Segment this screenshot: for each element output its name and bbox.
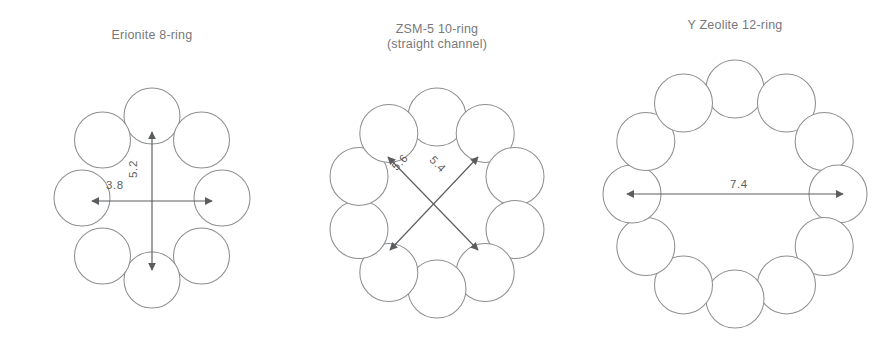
zeolite-ring-comparison-figure: Erionite 8-ring5.23.8ZSM-5 10-ring (stra… <box>0 0 888 350</box>
ring-atom <box>706 270 764 328</box>
ring-atom <box>617 218 675 276</box>
dimension-label-horizontal-aperture: 7.4 <box>723 178 755 190</box>
ring-atom <box>706 60 764 118</box>
ring-atom <box>655 74 713 132</box>
ring-atom <box>795 113 853 171</box>
ring-atom <box>758 256 816 314</box>
panel-yzeolite: Y Zeolite 12-ring7.4 <box>0 0 888 350</box>
ring-graphic-yzeolite <box>0 0 888 350</box>
